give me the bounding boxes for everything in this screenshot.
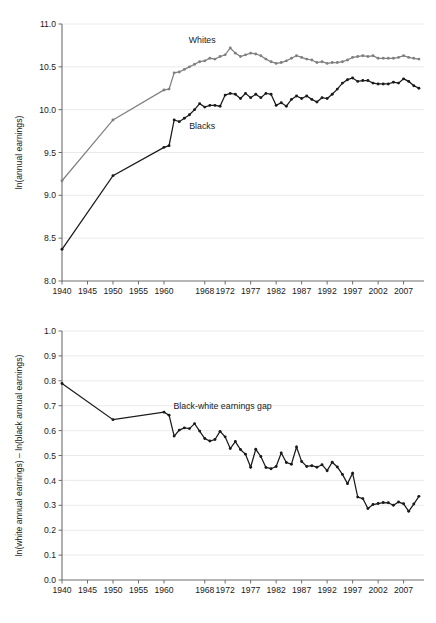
x-tick-label: 1997 — [343, 286, 362, 296]
x-tick-label: 1955 — [129, 585, 148, 595]
data-point — [361, 497, 364, 500]
data-point — [356, 496, 359, 499]
data-point — [254, 53, 257, 56]
data-point — [193, 63, 196, 66]
data-point — [183, 68, 186, 71]
data-point — [387, 501, 390, 504]
data-point — [315, 101, 318, 104]
grid-lines — [62, 331, 424, 555]
data-point — [224, 53, 227, 56]
data-point — [61, 382, 64, 385]
data-point — [234, 52, 237, 55]
data-point — [361, 54, 364, 57]
x-tick-label: 1977 — [241, 585, 260, 595]
data-point — [372, 54, 375, 57]
x-tick-label: 1972 — [216, 585, 235, 595]
data-point — [239, 97, 242, 100]
data-point — [178, 71, 181, 74]
data-point — [387, 83, 390, 86]
data-point — [331, 461, 334, 464]
data-point — [198, 102, 201, 105]
data-point — [366, 79, 369, 82]
data-point — [203, 59, 206, 62]
data-point — [315, 61, 318, 64]
data-point — [183, 426, 186, 429]
data-point — [285, 59, 288, 62]
data-point — [346, 482, 349, 485]
data-point — [417, 495, 420, 498]
figure-two-panel-earnings: 8.08.59.09.510.010.511.01940194519501955… — [0, 0, 436, 623]
data-point — [392, 504, 395, 507]
data-point — [188, 427, 191, 430]
x-tick-label: 1960 — [154, 585, 173, 595]
y-tick-label: 0.4 — [44, 476, 56, 486]
x-tick-label: 1950 — [103, 585, 122, 595]
x-axis-ticks: 1940194519501955196019681972197719821987… — [52, 281, 413, 296]
series-annotation-label: Blacks — [189, 121, 216, 131]
x-tick-label: 2002 — [369, 286, 388, 296]
data-point — [397, 501, 400, 504]
y-axis-title: ln(white annual earnings) – ln(black ann… — [14, 355, 24, 557]
data-point — [392, 57, 395, 60]
data-point — [198, 430, 201, 433]
y-tick-label: 0.9 — [44, 351, 56, 361]
data-point — [270, 60, 273, 63]
series-annotation-label: Whites — [189, 35, 216, 45]
data-point — [366, 55, 369, 58]
data-point — [387, 57, 390, 60]
data-point — [331, 93, 334, 96]
y-axis-ticks: 0.00.10.20.30.40.50.60.70.80.91.0 — [44, 326, 62, 585]
data-point — [203, 437, 206, 440]
data-point — [214, 438, 217, 441]
data-point — [402, 77, 405, 80]
series-blacks — [61, 77, 421, 251]
data-point — [285, 461, 288, 464]
data-point — [310, 59, 313, 62]
x-tick-label: 1982 — [267, 286, 286, 296]
y-axis-ticks: 8.08.59.09.510.010.511.0 — [39, 19, 62, 286]
data-point — [412, 503, 415, 506]
earnings-gap-plot: 0.00.10.20.30.40.50.60.70.80.91.01940194… — [0, 311, 436, 623]
data-point — [361, 79, 364, 82]
data-point — [300, 56, 303, 59]
data-point — [214, 104, 217, 107]
data-point — [270, 467, 273, 470]
x-tick-label: 1987 — [292, 585, 311, 595]
data-point — [402, 502, 405, 505]
data-point — [224, 435, 227, 438]
data-point — [326, 469, 329, 472]
data-point — [300, 460, 303, 463]
data-point — [183, 117, 186, 120]
y-tick-label: 0.1 — [44, 550, 56, 560]
data-point — [372, 503, 375, 506]
data-point — [249, 466, 252, 469]
data-point — [280, 452, 283, 455]
x-tick-label: 1977 — [241, 286, 260, 296]
data-point — [193, 108, 196, 111]
data-point — [178, 120, 181, 123]
data-point — [208, 440, 211, 443]
data-point — [275, 62, 278, 65]
y-tick-label: 1.0 — [44, 326, 56, 336]
y-tick-label: 8.0 — [44, 276, 56, 286]
data-point — [295, 446, 298, 449]
data-point — [234, 93, 237, 96]
data-point — [407, 56, 410, 59]
data-point — [208, 57, 211, 60]
data-point — [178, 429, 181, 432]
data-point — [264, 466, 267, 469]
data-point — [356, 80, 359, 83]
data-point — [290, 463, 293, 466]
data-point — [264, 58, 267, 61]
data-point — [351, 472, 354, 475]
data-point — [305, 465, 308, 468]
y-axis-title: ln(annual earnings) — [14, 116, 24, 190]
data-point — [264, 92, 267, 95]
data-point — [397, 56, 400, 59]
data-point — [112, 418, 115, 421]
x-tick-label: 1992 — [318, 286, 337, 296]
data-point — [382, 83, 385, 86]
data-point — [163, 146, 166, 149]
data-point — [214, 58, 217, 61]
data-point — [193, 422, 196, 425]
